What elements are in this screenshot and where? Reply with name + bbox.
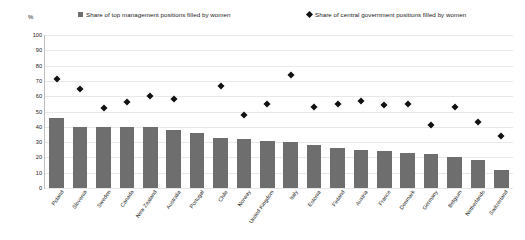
legend-label-central-government: Share of central government positions fi…: [315, 11, 466, 18]
y-axis-tick-label: 70: [28, 78, 42, 84]
x-axis-tick-label: Germany: [421, 189, 439, 211]
data-point-marker[interactable]: [287, 71, 294, 78]
data-point-marker[interactable]: [498, 132, 505, 139]
data-point-marker[interactable]: [404, 100, 411, 107]
x-axis-tick-label: Netherlands: [464, 189, 486, 217]
bar[interactable]: [143, 127, 158, 188]
gridline: [45, 173, 513, 174]
y-axis-tick-label: 80: [28, 63, 42, 69]
x-axis-tick-label: Switzerland: [488, 189, 509, 216]
y-axis-tick-label: 10: [28, 170, 42, 176]
data-point-marker[interactable]: [381, 102, 388, 109]
bar[interactable]: [213, 138, 228, 188]
y-axis-tick-label: 90: [28, 47, 42, 53]
bar[interactable]: [377, 151, 392, 188]
x-axis-tick-label: Estonia: [307, 189, 322, 207]
bar[interactable]: [330, 148, 345, 188]
data-point-marker[interactable]: [147, 93, 154, 100]
x-axis-tick-label: New Zealand: [135, 189, 158, 219]
gridline: [45, 66, 513, 67]
bar[interactable]: [96, 127, 111, 188]
data-point-marker[interactable]: [123, 99, 130, 106]
x-axis-tick-label: Slovenia: [71, 189, 88, 210]
data-point-marker[interactable]: [451, 103, 458, 110]
square-swatch-icon: [78, 12, 83, 17]
x-axis-tick-label: Norway: [236, 189, 252, 208]
x-axis-tick-label: Italy: [288, 189, 299, 201]
diamond-swatch-icon: [306, 11, 313, 18]
bar[interactable]: [494, 170, 509, 188]
data-point-marker[interactable]: [357, 97, 364, 104]
legend-label-top-management: Share of top management positions filled…: [86, 11, 231, 18]
bar[interactable]: [120, 127, 135, 188]
x-axis-tick-label: Austria: [354, 189, 369, 206]
x-axis-tick-label: United Kingdom: [248, 189, 275, 224]
bar[interactable]: [190, 133, 205, 188]
data-point-marker[interactable]: [474, 119, 481, 126]
gridline: [45, 157, 513, 158]
x-axis-tick-label: Portugal: [188, 189, 205, 209]
bar[interactable]: [354, 150, 369, 188]
x-axis-tick-label: Belgium: [446, 189, 462, 209]
data-point-marker[interactable]: [264, 100, 271, 107]
chart-legend: Share of top management positions filled…: [0, 10, 525, 28]
data-point-marker[interactable]: [77, 85, 84, 92]
x-axis-tick-label: Finland: [330, 189, 345, 207]
x-axis-tick-label: Poland: [50, 189, 65, 206]
bar[interactable]: [400, 153, 415, 188]
x-axis-tick-label: Denmark: [398, 189, 416, 211]
x-axis-tick-label: France: [378, 189, 393, 206]
y-axis-tick-labels: 1009080706050403020100: [26, 35, 42, 188]
bar[interactable]: [166, 130, 181, 188]
y-axis-unit-label: %: [28, 14, 33, 20]
y-axis-tick-label: 30: [28, 139, 42, 145]
y-axis-tick-label: 20: [28, 154, 42, 160]
bar[interactable]: [447, 157, 462, 188]
bar[interactable]: [237, 139, 252, 188]
bar[interactable]: [283, 142, 298, 188]
legend-entry-top-management[interactable]: Share of top management positions filled…: [78, 11, 231, 18]
x-axis-category-labels: PolandSloveniaSwedenCanadaNew ZealandAus…: [44, 189, 512, 239]
y-axis-tick-label: 60: [28, 93, 42, 99]
gridline: [45, 112, 513, 113]
x-axis-tick-label: Canada: [119, 189, 135, 208]
data-point-marker[interactable]: [170, 96, 177, 103]
gridline: [45, 35, 513, 36]
gridline: [45, 50, 513, 51]
bar[interactable]: [471, 160, 486, 188]
x-axis-tick-label: Chile: [216, 189, 228, 203]
plot-area: [44, 35, 513, 189]
bar[interactable]: [307, 145, 322, 188]
x-axis-tick-label: Australia: [164, 189, 181, 210]
y-axis-tick-label: 100: [28, 32, 42, 38]
bar[interactable]: [73, 127, 88, 188]
gridline: [45, 142, 513, 143]
chart-container: Share of top management positions filled…: [0, 0, 525, 240]
data-point-marker[interactable]: [217, 82, 224, 89]
gridline: [45, 96, 513, 97]
legend-entry-central-government[interactable]: Share of central government positions fi…: [307, 11, 466, 18]
bar[interactable]: [260, 141, 275, 188]
bar[interactable]: [424, 154, 439, 188]
bar[interactable]: [49, 118, 64, 188]
data-point-marker[interactable]: [311, 103, 318, 110]
gridline: [45, 127, 513, 128]
y-axis-tick-label: 0: [28, 185, 42, 191]
gridline: [45, 81, 513, 82]
y-axis-tick-label: 40: [28, 124, 42, 130]
data-point-marker[interactable]: [334, 100, 341, 107]
x-axis-tick-label: Sweden: [95, 189, 111, 209]
y-axis-tick-label: 50: [28, 109, 42, 115]
